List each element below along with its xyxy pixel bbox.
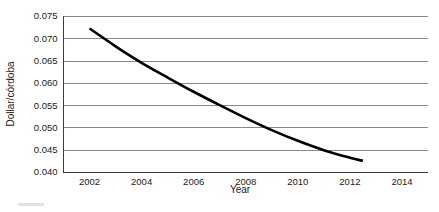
y-tick-label: 0.050 (34, 122, 58, 133)
x-axis-title: Year (230, 184, 251, 195)
x-tick-label: 2012 (339, 176, 360, 187)
x-tick-label: 2014 (391, 176, 412, 187)
y-tick-label: 0.055 (34, 100, 58, 111)
data-series-line (90, 28, 363, 160)
y-tick-label: 0.065 (34, 55, 58, 66)
x-tick-label: 2006 (183, 176, 204, 187)
y-tick-label: 0.040 (34, 166, 58, 177)
chart-container: 0.0400.0450.0500.0550.0600.0650.0700.075… (0, 0, 439, 212)
x-tick-label: 2002 (79, 176, 100, 187)
y-tick-label: 0.045 (34, 144, 58, 155)
y-tick-label: 0.070 (34, 33, 58, 44)
x-tick-label: 2004 (131, 176, 152, 187)
gridlines (64, 17, 429, 173)
x-tick-label: 2010 (287, 176, 308, 187)
y-tick-labels: 0.0400.0450.0500.0550.0600.0650.0700.075 (34, 10, 58, 177)
y-tick-label: 0.060 (34, 77, 58, 88)
y-tick-label: 0.075 (34, 10, 58, 21)
footer-mark (18, 203, 44, 206)
y-axis-title: Dollar/córdoba (5, 61, 16, 126)
line-chart: 0.0400.0450.0500.0550.0600.0650.0700.075… (0, 0, 439, 212)
